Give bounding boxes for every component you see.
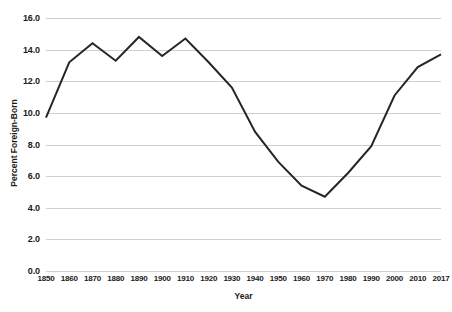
x-axis-tick-label: 1920 <box>200 274 217 283</box>
y-axis-tick-label: 10.0 <box>0 108 40 118</box>
x-axis-tick-label: 1870 <box>84 274 101 283</box>
x-axis-tick-label: 1970 <box>316 274 333 283</box>
plot-area <box>46 18 441 271</box>
x-axis-tick-label: 1930 <box>223 274 240 283</box>
series-line-foreign-born <box>46 18 441 271</box>
x-axis-tick-label: 2000 <box>386 274 403 283</box>
x-axis-tick-label: 1980 <box>340 274 357 283</box>
gridline <box>46 271 441 272</box>
y-axis-tick-label: 4.0 <box>0 203 40 213</box>
x-axis-tick-label: 1880 <box>107 274 124 283</box>
x-axis-tick-label: 1960 <box>293 274 310 283</box>
x-axis-tick-label: 1990 <box>363 274 380 283</box>
x-axis-tick-label: 1900 <box>154 274 171 283</box>
y-axis-tick-label: 14.0 <box>0 45 40 55</box>
x-axis-tick-label: 2010 <box>409 274 426 283</box>
x-axis-tick-label: 1850 <box>38 274 55 283</box>
x-axis-tick-label: 1890 <box>130 274 147 283</box>
y-axis-tick-label: 16.0 <box>0 13 40 23</box>
chart-container: Percent Foreign-Born 16.014.012.010.08.0… <box>0 0 452 312</box>
x-axis-tick-label: 1940 <box>247 274 264 283</box>
y-axis-tick-label: 2.0 <box>0 234 40 244</box>
x-axis-title: Year <box>46 291 441 301</box>
y-axis-tick-label: 6.0 <box>0 171 40 181</box>
x-axis-tick-label: 1950 <box>270 274 287 283</box>
y-axis-tick-label: 12.0 <box>0 76 40 86</box>
y-axis-tick-label: 0.0 <box>0 266 40 276</box>
x-axis-tick-label: 1860 <box>61 274 78 283</box>
x-axis-tick-labels: 1850186018701880189019001910192019301940… <box>46 274 441 288</box>
y-axis-tick-labels: 16.014.012.010.08.06.04.02.00.0 <box>0 18 40 271</box>
x-axis-tick-label: 1910 <box>177 274 194 283</box>
y-axis-tick-label: 8.0 <box>0 140 40 150</box>
x-axis-tick-label: 2017 <box>433 274 450 283</box>
